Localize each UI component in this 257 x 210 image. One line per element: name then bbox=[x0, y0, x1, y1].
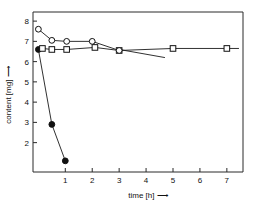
y-tick-label: 3 bbox=[25, 118, 30, 127]
y-axis-ticks bbox=[33, 21, 37, 143]
chart-figure: 12345672345678 time [h] ⟶ content [mg] ⟶ bbox=[0, 0, 257, 210]
data-point-filled-circle bbox=[62, 158, 68, 164]
data-point-open-circle bbox=[116, 48, 122, 54]
data-point-open-square bbox=[92, 45, 98, 51]
x-axis-title: time [h] ⟶ bbox=[128, 191, 168, 200]
x-tick-label: 6 bbox=[198, 176, 203, 185]
data-point-open-square bbox=[170, 46, 176, 52]
y-axis-title: content [mg] ⟶ bbox=[4, 65, 13, 123]
axis-tick-labels: 12345672345678 bbox=[25, 17, 230, 185]
data-point-open-square bbox=[224, 46, 230, 52]
chart-canvas: 12345672345678 time [h] ⟶ content [mg] ⟶ bbox=[0, 0, 257, 210]
data-markers-group bbox=[35, 26, 229, 163]
y-tick-label: 4 bbox=[25, 98, 30, 107]
data-point-open-square bbox=[49, 47, 55, 53]
data-point-open-circle bbox=[89, 38, 95, 44]
y-tick-label: 8 bbox=[25, 17, 30, 26]
data-point-filled-circle bbox=[49, 122, 55, 128]
x-tick-label: 7 bbox=[225, 176, 230, 185]
data-point-open-square bbox=[64, 47, 70, 53]
axis-frame bbox=[33, 12, 243, 172]
data-point-open-circle bbox=[35, 26, 41, 32]
y-tick-label: 2 bbox=[25, 139, 30, 148]
data-point-open-circle bbox=[64, 38, 70, 44]
x-tick-label: 5 bbox=[171, 176, 176, 185]
y-tick-label: 7 bbox=[25, 37, 30, 46]
data-point-open-square bbox=[40, 46, 46, 52]
x-tick-label: 4 bbox=[144, 176, 149, 185]
x-tick-label: 3 bbox=[117, 176, 122, 185]
series-line-slow-decline-branch bbox=[119, 49, 165, 57]
y-tick-label: 6 bbox=[25, 58, 30, 67]
x-tick-label: 1 bbox=[63, 176, 68, 185]
y-tick-label: 5 bbox=[25, 78, 30, 87]
data-point-open-circle bbox=[49, 37, 55, 43]
x-tick-label: 2 bbox=[90, 176, 95, 185]
series-line-degrading-sample-filled-circles bbox=[38, 49, 65, 160]
series-line-stable-sample-open-squares bbox=[42, 47, 226, 50]
x-axis-ticks bbox=[65, 168, 227, 172]
